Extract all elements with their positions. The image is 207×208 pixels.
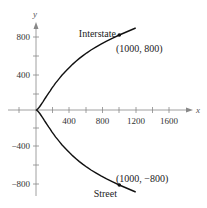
x-tick-400: 400: [62, 116, 76, 126]
y-tick-400: 400: [17, 70, 31, 80]
interstate-point-label: (1000, 800): [116, 43, 163, 55]
x-tick-1200: 1200: [127, 116, 146, 126]
x-tick-1600: 1600: [160, 116, 179, 126]
street-annotation: (1000, −800) Street: [94, 173, 169, 199]
interstate-label: Interstate: [79, 28, 117, 39]
street-point-label: (1000, −800): [116, 173, 168, 185]
parabola-chart: 400 800 1200 1600 x 800 400 −400 −800 y …: [0, 0, 207, 208]
y-tick-800: 800: [17, 32, 31, 42]
x-axis: 400 800 1200 1600 x: [8, 105, 200, 126]
street-label: Street: [94, 188, 118, 199]
x-axis-label: x: [195, 105, 200, 115]
y-axis: 800 400 −400 −800 y: [11, 9, 39, 196]
y-tick-neg-800: −800: [11, 179, 30, 189]
x-axis-arrow-icon: [186, 108, 193, 113]
y-axis-label: y: [32, 9, 37, 19]
x-tick-800: 800: [96, 116, 110, 126]
interstate-annotation: Interstate (1000, 800): [79, 28, 163, 55]
y-axis-arrow-icon: [34, 22, 39, 29]
interstate-point: [118, 33, 122, 37]
y-tick-neg-400: −400: [11, 141, 30, 151]
